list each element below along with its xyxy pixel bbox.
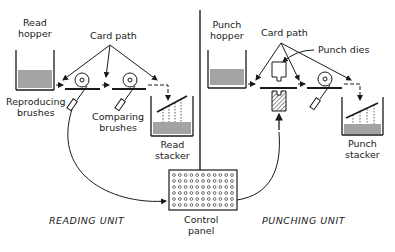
control-panel-hole xyxy=(225,186,228,189)
card-path-label-right: Card path xyxy=(261,27,308,38)
control-panel-hole xyxy=(231,204,234,207)
control-panel-hole xyxy=(202,186,205,189)
control-panel-hole xyxy=(219,192,222,195)
control-panel-hole xyxy=(213,192,216,195)
control-panel-hole xyxy=(173,186,176,189)
control-panel-hole xyxy=(196,186,199,189)
punch-stacker xyxy=(342,97,383,135)
control-panel-hole xyxy=(202,204,205,207)
control-panel-hole xyxy=(184,192,187,195)
control-panel-hole xyxy=(173,180,176,183)
card-path-label-left: Card path xyxy=(90,30,137,41)
control-panel-hole xyxy=(225,198,228,201)
control-panel-hole xyxy=(178,198,181,201)
control-panel-hole xyxy=(213,186,216,189)
control-panel-hole xyxy=(196,180,199,183)
control-panel-hole xyxy=(219,180,222,183)
control-panel-hole xyxy=(184,174,187,177)
control-panel-hole xyxy=(173,204,176,207)
control-panel-hole xyxy=(213,180,216,183)
control-panel-hole xyxy=(202,180,205,183)
control-panel-hole xyxy=(178,192,181,195)
control-panel-hole xyxy=(219,204,222,207)
reproducing-brushes-label: Reproducing brushes xyxy=(6,96,66,118)
control-panel-hole xyxy=(178,204,181,207)
read-stacker-label: Read stacker xyxy=(155,139,190,161)
control-panel-hole xyxy=(190,174,193,177)
control-panel-hole xyxy=(196,198,199,201)
control-panel-hole xyxy=(184,204,187,207)
punch-hopper xyxy=(208,50,246,88)
roller xyxy=(123,73,137,87)
control-panel-hole xyxy=(173,174,176,177)
comparing-brushes-label: Comparing brushes xyxy=(92,111,144,133)
control-panel-hole xyxy=(190,198,193,201)
control-panel-hole xyxy=(190,186,193,189)
control-panel-hole xyxy=(231,186,234,189)
control-panel-hole xyxy=(225,192,228,195)
control-panel-hole xyxy=(219,186,222,189)
read-hopper-label: Read hopper xyxy=(18,17,52,39)
control-panel-hole xyxy=(196,204,199,207)
control-panel-hole xyxy=(196,192,199,195)
read-hopper xyxy=(16,50,54,90)
control-panel-hole xyxy=(202,174,205,177)
read-stacker xyxy=(151,96,193,136)
control-panel-hole xyxy=(202,192,205,195)
control-panel-label: Control panel xyxy=(184,214,218,236)
control-panel-hole xyxy=(207,192,210,195)
control-panel-hole xyxy=(173,192,176,195)
punch-hopper-label: Punch hopper xyxy=(210,19,244,41)
control-panel-hole xyxy=(213,198,216,201)
control-panel-hole xyxy=(207,174,210,177)
punch-dies-label: Punch dies xyxy=(318,44,369,55)
control-panel-hole xyxy=(225,204,228,207)
control-panel-hole xyxy=(207,204,210,207)
roller xyxy=(318,72,332,86)
control-panel-hole xyxy=(219,198,222,201)
control-panel-hole xyxy=(173,198,176,201)
control-panel-hole xyxy=(184,198,187,201)
control-panel-hole xyxy=(207,186,210,189)
control-panel-hole xyxy=(190,180,193,183)
control-panel-hole xyxy=(231,180,234,183)
control-panel-hole xyxy=(178,174,181,177)
control-panel-hole xyxy=(207,180,210,183)
control-panel-hole xyxy=(225,174,228,177)
roller xyxy=(75,73,89,87)
punch-die-icon xyxy=(272,62,286,111)
punching-unit-label: PUNCHING UNIT xyxy=(262,215,345,226)
punch-stacker-label: Punch stacker xyxy=(345,138,380,160)
control-panel-hole xyxy=(231,198,234,201)
control-panel-hole xyxy=(196,174,199,177)
control-panel-hole xyxy=(231,174,234,177)
control-panel-hole xyxy=(213,174,216,177)
control-panel-hole xyxy=(231,192,234,195)
control-panel-hole xyxy=(202,198,205,201)
control-panel-hole xyxy=(213,204,216,207)
control-panel-hole xyxy=(207,198,210,201)
control-panel-hole xyxy=(190,204,193,207)
control-panel-hole xyxy=(178,180,181,183)
control-panel-hole xyxy=(184,180,187,183)
control-panel-hole xyxy=(225,180,228,183)
control-panel-hole xyxy=(184,186,187,189)
reading-unit-label: READING UNIT xyxy=(49,215,124,226)
control-panel-hole xyxy=(219,174,222,177)
control-panel-hole xyxy=(178,186,181,189)
control-panel-hole xyxy=(190,192,193,195)
